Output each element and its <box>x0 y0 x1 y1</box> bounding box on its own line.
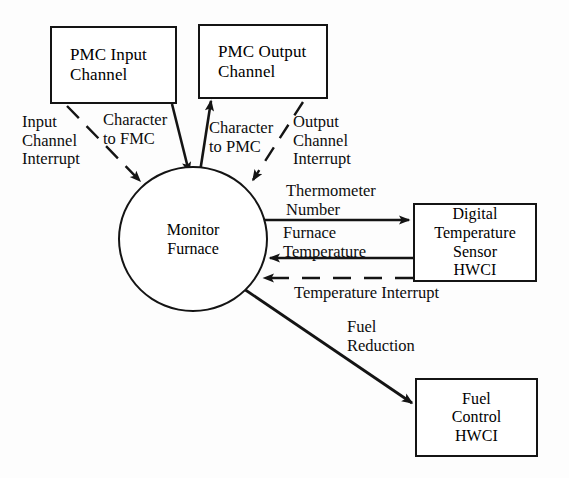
node-digital-temperature-sensor-line1: Digital <box>452 205 497 224</box>
node-pmc-output-channel-line2: Channel <box>218 62 275 82</box>
flow-label-output-channel-interrupt-line1: Output <box>293 113 351 132</box>
node-monitor-furnace-line1: Monitor <box>167 220 219 239</box>
node-digital-temperature-sensor-hwci[interactable]: Digital Temperature Sensor HWCI <box>413 203 537 282</box>
flow-label-character-to-fmc-line2: to FMC <box>103 130 167 149</box>
flow-label-fuel-reduction-line1: Fuel <box>347 318 415 337</box>
flow-label-furnace-temperature: Furnace Temperature <box>283 224 366 261</box>
connector-character-to-fmc <box>172 104 189 172</box>
node-pmc-output-channel-line1: PMC Output <box>218 42 306 62</box>
flow-label-temperature-interrupt: Temperature Interrupt <box>294 284 439 303</box>
node-fuel-control-line2: Control <box>452 408 502 427</box>
flow-label-input-channel-interrupt-line2: Channel <box>22 132 80 151</box>
node-pmc-input-channel[interactable]: PMC Input Channel <box>50 26 177 104</box>
flow-label-input-channel-interrupt-line1: Input <box>22 113 80 132</box>
flow-label-output-channel-interrupt-line3: Interrupt <box>293 150 351 169</box>
flow-label-output-channel-interrupt: Output Channel Interrupt <box>293 113 351 169</box>
flow-label-furnace-temperature-line1: Furnace <box>283 224 366 243</box>
node-digital-temperature-sensor-line2: Temperature <box>434 224 516 243</box>
node-pmc-output-channel[interactable]: PMC Output Channel <box>198 24 328 99</box>
flow-label-input-channel-interrupt: Input Channel Interrupt <box>22 113 80 169</box>
flow-label-thermometer-number-line2: Number <box>286 201 376 220</box>
flow-label-fuel-reduction-line2: Reduction <box>347 337 415 356</box>
flow-label-input-channel-interrupt-line3: Interrupt <box>22 150 80 169</box>
flow-label-character-to-pmc-line2: to PMC <box>209 138 273 157</box>
data-flow-diagram: PMC Input Channel PMC Output Channel Mon… <box>0 0 569 478</box>
node-pmc-input-channel-line2: Channel <box>70 65 127 85</box>
node-fuel-control-line3: HWCI <box>455 427 498 446</box>
flow-label-furnace-temperature-line2: Temperature <box>283 243 366 262</box>
flow-label-temperature-interrupt-line1: Temperature Interrupt <box>294 284 439 303</box>
flow-label-thermometer-number: Thermometer Number <box>286 182 376 219</box>
flow-label-output-channel-interrupt-line2: Channel <box>293 132 351 151</box>
node-pmc-input-channel-line1: PMC Input <box>70 45 147 65</box>
node-monitor-furnace-process[interactable]: Monitor Furnace <box>118 166 268 312</box>
flow-label-character-to-pmc-line1: Character <box>209 119 273 138</box>
node-fuel-control-hwci[interactable]: Fuel Control HWCI <box>415 378 538 457</box>
node-fuel-control-line1: Fuel <box>462 390 491 409</box>
flow-label-fuel-reduction: Fuel Reduction <box>347 318 415 355</box>
flow-label-character-to-fmc-line1: Character <box>103 111 167 130</box>
node-monitor-furnace-line2: Furnace <box>167 239 219 258</box>
node-digital-temperature-sensor-line3: Sensor <box>453 243 497 262</box>
flow-label-character-to-pmc: Character to PMC <box>209 119 273 156</box>
flow-label-thermometer-number-line1: Thermometer <box>286 182 376 201</box>
flow-label-character-to-fmc: Character to FMC <box>103 111 167 148</box>
node-digital-temperature-sensor-line4: HWCI <box>453 261 496 280</box>
